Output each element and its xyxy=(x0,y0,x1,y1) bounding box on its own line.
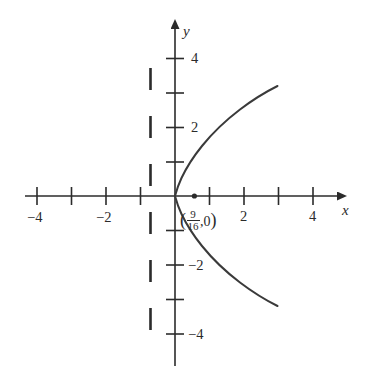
annotation-zero: 0 xyxy=(204,215,211,229)
plot-canvas xyxy=(0,0,367,387)
parabola-figure: x y −4 −2 2 4 4 2 −2 −4 ( 9 16 , 0 ) xyxy=(0,0,367,387)
open-paren: ( xyxy=(180,211,186,229)
y-tick-label-4: 4 xyxy=(191,51,198,66)
focus-point-label: ( 9 16 , 0 ) xyxy=(180,209,217,232)
x-tick-label-2: 2 xyxy=(240,209,247,224)
x-tick-label--2: −2 xyxy=(96,210,111,225)
fraction-numerator: 9 xyxy=(189,209,197,220)
fraction-nine-sixteenths: 9 16 xyxy=(187,209,200,232)
y-tick-label--2: −2 xyxy=(188,258,203,273)
close-paren: ) xyxy=(211,211,217,229)
y-tick-label--4: −4 xyxy=(188,327,203,342)
fraction-denominator: 16 xyxy=(187,221,200,232)
x-axis-label: x xyxy=(342,203,349,218)
y-axis-label: y xyxy=(183,24,190,39)
focus-point-dot xyxy=(192,193,197,198)
x-tick-label-4: 4 xyxy=(309,209,316,224)
y-tick-label-2: 2 xyxy=(191,120,198,135)
parabola-upper-branch xyxy=(175,86,278,196)
x-tick-label--4: −4 xyxy=(27,210,42,225)
